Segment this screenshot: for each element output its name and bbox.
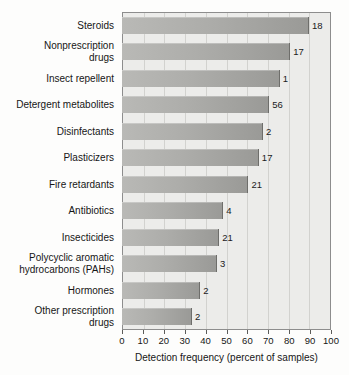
category-axis-labels: SteroidsNonprescriptiondrugsInsect repel… [0, 12, 118, 330]
bar-row: 17 [122, 39, 331, 66]
x-tick-label: 30 [179, 335, 190, 346]
x-tick-label: 40 [200, 335, 211, 346]
category-label-line: Antibiotics [68, 205, 114, 217]
bar-value-label: 56 [272, 100, 283, 110]
category-label: Steroids [0, 12, 118, 39]
chart-page: SteroidsNonprescriptiondrugsInsect repel… [0, 0, 349, 375]
bar [122, 255, 217, 272]
category-label: Antibiotics [0, 198, 118, 225]
category-label-line: Other prescription [35, 305, 114, 317]
bar-value-label: 2 [266, 127, 271, 137]
category-label: Detergent metabolites [0, 92, 118, 119]
bar-row: 2 [122, 277, 331, 304]
bar [122, 176, 248, 193]
bar [122, 70, 280, 87]
x-tick-label: 70 [263, 335, 274, 346]
x-tick [122, 330, 123, 334]
bar [122, 149, 259, 166]
bar [122, 96, 269, 113]
bar-value-label: 21 [251, 180, 262, 190]
bar-value-label: 21 [222, 233, 233, 243]
x-tick [164, 330, 165, 334]
bar-value-label: 2 [203, 286, 208, 296]
bar-value-label: 17 [262, 153, 273, 163]
bar-row: 2 [122, 304, 331, 331]
x-tick-label: 100 [323, 335, 339, 346]
x-tick-label: 60 [242, 335, 253, 346]
category-label-line: Nonprescription [44, 40, 114, 52]
bar-value-label: 17 [293, 47, 304, 57]
category-label-line: Disinfectants [57, 126, 114, 138]
category-label: Disinfectants [0, 118, 118, 145]
category-label: Fire retardants [0, 171, 118, 198]
x-axis-title: Detection frequency (percent of samples) [122, 352, 331, 363]
bar-row: 3 [122, 251, 331, 278]
category-label: Insect repellent [0, 65, 118, 92]
category-label-line: drugs [44, 52, 114, 64]
bar [122, 17, 309, 34]
category-label-line: Polycyclic aromatic [19, 252, 114, 264]
category-label: Insecticides [0, 224, 118, 251]
category-label-line: Fire retardants [49, 179, 114, 191]
bar-row: 2 [122, 118, 331, 145]
x-tick-label: 50 [221, 335, 232, 346]
category-label: Other prescriptiondrugs [0, 304, 118, 331]
bar-value-label: 4 [226, 206, 231, 216]
category-label-line: Insect repellent [46, 73, 114, 85]
x-tick [185, 330, 186, 334]
x-tick [310, 330, 311, 334]
bar-row: 18 [122, 12, 331, 39]
bar-value-label: 2 [195, 312, 200, 322]
bar-row: 56 [122, 92, 331, 119]
x-tick [227, 330, 228, 334]
x-tick [143, 330, 144, 334]
bar-row: 21 [122, 224, 331, 251]
category-label-line: drugs [35, 317, 114, 329]
category-label-line: hydrocarbons (PAHs) [19, 264, 114, 276]
x-tick-label: 10 [138, 335, 149, 346]
bar-row: 17 [122, 145, 331, 172]
bar-row: 21 [122, 171, 331, 198]
x-tick [268, 330, 269, 334]
category-label-line: Detergent metabolites [16, 99, 114, 111]
x-tick-label: 90 [305, 335, 316, 346]
bar [122, 43, 290, 60]
bar [122, 308, 192, 325]
x-tick-label: 20 [159, 335, 170, 346]
category-label-line: Hormones [68, 285, 114, 297]
category-label-line: Plasticizers [63, 152, 114, 164]
x-tick [331, 330, 332, 334]
x-tick-label: 80 [284, 335, 295, 346]
bar [122, 282, 200, 299]
bar [122, 123, 263, 140]
x-tick [206, 330, 207, 334]
bar-value-label: 18 [312, 21, 323, 31]
category-label: Nonprescriptiondrugs [0, 39, 118, 66]
bar-series: 181715621721421322 [122, 12, 331, 330]
x-axis: 0102030405060708090100 [122, 330, 331, 352]
x-tick [289, 330, 290, 334]
x-tick [247, 330, 248, 334]
bar-value-label: 3 [220, 259, 225, 269]
bar-value-label: 1 [283, 74, 288, 84]
category-label: Hormones [0, 277, 118, 304]
category-label: Polycyclic aromatichydrocarbons (PAHs) [0, 251, 118, 278]
bar-row: 4 [122, 198, 331, 225]
category-label: Plasticizers [0, 145, 118, 172]
bar [122, 202, 223, 219]
x-tick-label: 0 [119, 335, 124, 346]
category-label-line: Insecticides [62, 232, 114, 244]
category-label-line: Steroids [77, 20, 114, 32]
bar [122, 229, 219, 246]
bar-row: 1 [122, 65, 331, 92]
